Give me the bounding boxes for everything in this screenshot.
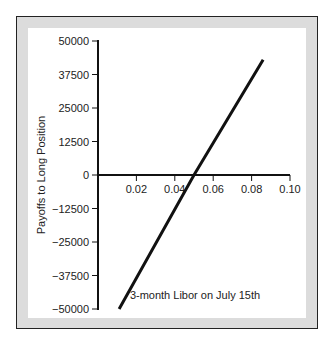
y-tick-label: −37500 [52, 270, 89, 282]
x-axis-label: 3-month Libor on July 15th [130, 289, 260, 301]
x-tick-label: 0.02 [126, 183, 147, 195]
x-tick-label: 0.08 [241, 183, 262, 195]
y-tick-label: 25000 [58, 102, 89, 114]
payoff-chart: 500003750025000125000−12500−25000−37500−… [0, 0, 334, 360]
y-tick-label: 0 [83, 169, 89, 181]
y-axis-label: Payoffs to Long Position [35, 116, 47, 234]
y-tick-label: 12500 [58, 136, 89, 148]
y-tick-label: −25000 [52, 236, 89, 248]
x-tick-label: 0.10 [279, 183, 300, 195]
x-tick-label: 0.06 [202, 183, 223, 195]
y-tick-label: −12500 [52, 203, 89, 215]
y-tick-label: 37500 [58, 69, 89, 81]
y-tick-label: −50000 [52, 303, 89, 315]
y-tick-label: 50000 [58, 35, 89, 47]
